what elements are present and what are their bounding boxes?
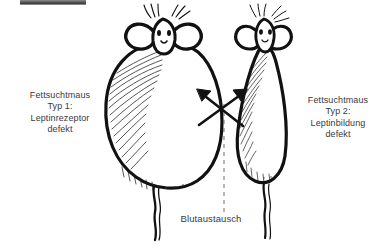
mouse-left-tail-inner: [159, 187, 161, 240]
mouse-left-eye-right: [167, 30, 171, 36]
mouse-left-whiskers: [144, 4, 190, 19]
label-mouse-left-line1: Fettsuchtmaus: [10, 90, 110, 101]
label-mouse-right-line2: Typ 2:: [288, 106, 388, 117]
mouse-right-head: [256, 19, 274, 52]
label-blood-exchange: Blutaustausch: [165, 213, 257, 224]
label-mouse-right-line4: defekt: [288, 129, 388, 140]
label-mouse-right-line3: Leptinbildung: [288, 118, 388, 129]
label-mouse-left-line3: Leptinrezeptor: [10, 113, 110, 124]
mouse-right-eye-right: [268, 29, 272, 35]
mouse-left-ear-left: [126, 24, 155, 49]
label-mouse-left-line2: Typ 1:: [10, 101, 110, 112]
mouse-right-eye-left: [259, 29, 263, 35]
label-mouse-right: Fettsuchtmaus Typ 2: Leptinbildung defek…: [288, 95, 388, 141]
mouse-right-tail: [264, 183, 266, 238]
figure-root: Fettsuchtmaus Typ 1: Leptinrezeptor defe…: [0, 0, 390, 252]
label-mouse-left-line4: defekt: [10, 124, 110, 135]
mouse-right-tail-inner: [269, 184, 271, 239]
label-mouse-left: Fettsuchtmaus Typ 1: Leptinrezeptor defe…: [10, 90, 110, 136]
mouse-left-eye-left: [157, 30, 161, 36]
label-mouse-right-line1: Fettsuchtmaus: [288, 95, 388, 106]
mouse-right-whiskers: [250, 4, 289, 22]
mouse-left-tail: [154, 186, 156, 240]
mouse-left-head: [153, 19, 175, 54]
mouse-right: [236, 4, 292, 239]
mouse-left-body: [106, 42, 222, 188]
